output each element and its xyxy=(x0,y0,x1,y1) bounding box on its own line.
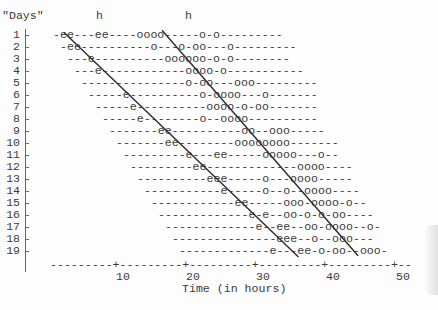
actogram-chart: "Days" h h 12345678910111213141516171819… xyxy=(0,0,438,310)
trend-line xyxy=(64,33,299,257)
trend-lines xyxy=(0,0,438,310)
scan-smudge xyxy=(424,225,438,295)
trend-line xyxy=(162,30,358,256)
